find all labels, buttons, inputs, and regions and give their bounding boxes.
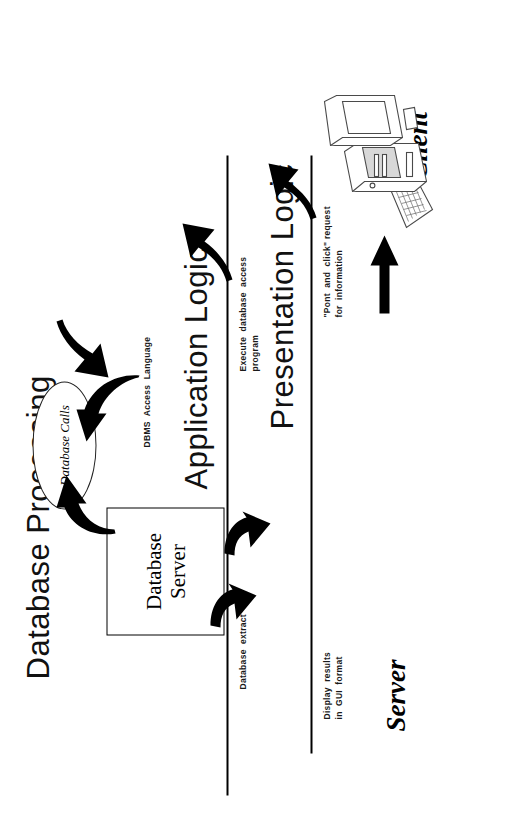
computer-tower-icon [344,143,426,191]
arrow-execute-database-access [182,219,236,281]
arrow-dbms-access-language [74,373,140,447]
node-database-server: Database Server [106,507,224,635]
arrow-point-and-click-request [268,161,320,219]
arrow-dbms-access-thick [54,317,110,379]
arrow-db-server-to-db-calls [54,463,116,533]
arrow-client-to-presentation [370,235,398,313]
note-execute-database-access: Execute database access program [236,256,260,371]
arrow-display-results [222,511,272,557]
arrow-database-extract [208,583,258,629]
note-database-extract: Database extract [236,614,248,690]
diagram-canvas: Database Processing Application Logic Pr… [0,0,505,819]
client-workstation-illustration [322,93,438,229]
node-database-server-label: Database Server [141,533,189,610]
tier-title-application-logic: Application Logic [178,246,214,489]
tier-divider-presentation [310,155,312,753]
note-display-results-gui: Display results in GUI format [320,651,344,719]
note-dbms-access-language: DBMS Access Language [140,336,152,447]
zone-label-server: Server [380,659,411,731]
monitor-icon [324,95,417,145]
